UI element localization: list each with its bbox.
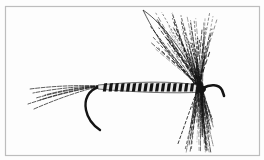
hook-bend — [86, 87, 100, 130]
hackle-fiber-upper — [197, 64, 198, 86]
tail-fibers — [28, 86, 100, 109]
fly-drawing — [0, 0, 264, 160]
wing — [143, 10, 217, 88]
frame-border — [6, 7, 260, 156]
tail-fiber — [34, 86, 100, 109]
segmented-body — [98, 82, 203, 93]
fly-illustration — [0, 0, 264, 160]
hook-eye — [203, 85, 224, 96]
